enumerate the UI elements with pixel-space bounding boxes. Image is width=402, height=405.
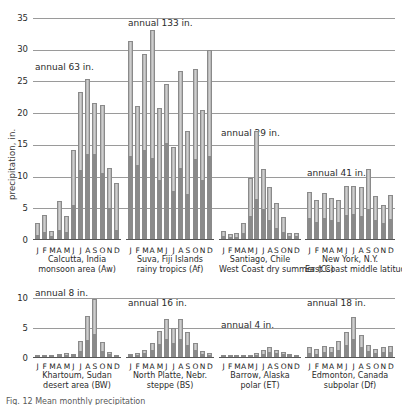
month-label: A bbox=[150, 246, 155, 255]
bar bbox=[241, 355, 246, 357]
month-label: M bbox=[142, 246, 147, 255]
x-axis-month-labels: JFMAMJJASOND bbox=[219, 246, 301, 255]
bar bbox=[164, 84, 169, 239]
bar bbox=[307, 192, 312, 239]
bar-lower-segment bbox=[115, 230, 118, 238]
bar-lower-segment bbox=[86, 154, 89, 238]
bar bbox=[114, 183, 119, 239]
month-label: J bbox=[261, 246, 266, 255]
month-label: M bbox=[336, 246, 341, 255]
bar bbox=[150, 343, 155, 357]
bar bbox=[344, 186, 349, 239]
month-label: N bbox=[107, 362, 112, 371]
bar-lower-segment bbox=[295, 355, 298, 356]
chart-panel: annual 133 in.JFMAMJJASONDSuva, Fiji Isl… bbox=[126, 0, 214, 270]
panel-location-name: North Platte, Nebr. bbox=[126, 371, 214, 381]
month-label: A bbox=[85, 362, 90, 371]
bar-lower-segment bbox=[129, 156, 132, 238]
month-label: O bbox=[193, 246, 198, 255]
bar-group bbox=[33, 17, 121, 239]
bar-lower-segment bbox=[235, 355, 238, 356]
bar-lower-segment bbox=[382, 223, 385, 238]
month-label: S bbox=[185, 362, 190, 371]
bar-lower-segment bbox=[222, 355, 225, 356]
month-label: F bbox=[228, 246, 233, 255]
bar-lower-segment bbox=[201, 354, 204, 356]
bar-lower-segment bbox=[308, 218, 311, 238]
y-tick-label: 10 bbox=[17, 294, 28, 303]
panel-climate-type: subpolar (Df) bbox=[305, 381, 395, 391]
month-label: N bbox=[287, 362, 292, 371]
month-label: M bbox=[49, 246, 54, 255]
bar-lower-segment bbox=[275, 353, 278, 356]
bar-lower-segment bbox=[352, 214, 355, 238]
bar bbox=[64, 353, 69, 357]
bar-lower-segment bbox=[315, 222, 318, 238]
bar bbox=[336, 200, 341, 239]
bar-lower-segment bbox=[101, 351, 104, 356]
month-label: J bbox=[128, 362, 133, 371]
month-label: M bbox=[157, 246, 162, 255]
plot-area bbox=[33, 18, 121, 240]
x-axis-line bbox=[305, 239, 395, 240]
month-label: J bbox=[164, 362, 169, 371]
month-label: D bbox=[114, 246, 119, 255]
month-label: S bbox=[185, 246, 190, 255]
month-label: N bbox=[381, 246, 386, 255]
y-tick-label: 35 bbox=[17, 14, 28, 23]
bar bbox=[221, 231, 226, 239]
plot-area bbox=[219, 18, 301, 240]
bar bbox=[178, 319, 183, 357]
panel-location-name: Calcutta, India bbox=[33, 255, 121, 265]
bar-group bbox=[305, 297, 395, 357]
bar bbox=[178, 71, 183, 239]
bar-lower-segment bbox=[108, 354, 111, 356]
month-label: J bbox=[261, 362, 266, 371]
month-label: J bbox=[254, 246, 259, 255]
month-label: N bbox=[287, 246, 292, 255]
bar bbox=[248, 178, 253, 239]
bar-lower-segment bbox=[108, 208, 111, 238]
bar-lower-segment bbox=[186, 194, 189, 238]
bar-lower-segment bbox=[101, 173, 104, 238]
month-label: D bbox=[294, 362, 299, 371]
bar-lower-segment bbox=[282, 354, 285, 356]
panel-climate-type: desert area (BW) bbox=[33, 381, 121, 391]
bar bbox=[388, 346, 393, 357]
month-label: A bbox=[150, 362, 155, 371]
month-label: F bbox=[42, 246, 47, 255]
panel-climate-type: steppe (BS) bbox=[126, 381, 214, 391]
bar-lower-segment bbox=[194, 159, 197, 238]
bar-lower-segment bbox=[58, 230, 61, 238]
bar bbox=[329, 347, 334, 357]
month-label: S bbox=[274, 362, 279, 371]
month-label: O bbox=[373, 362, 378, 371]
bar bbox=[281, 352, 286, 357]
month-label: M bbox=[322, 246, 327, 255]
month-label: O bbox=[100, 246, 105, 255]
bar bbox=[254, 353, 259, 357]
bar-lower-segment bbox=[43, 232, 46, 238]
month-label: A bbox=[241, 362, 246, 371]
month-label: A bbox=[178, 362, 183, 371]
bar-lower-segment bbox=[374, 220, 377, 238]
bar bbox=[221, 355, 226, 357]
panel-caption: Calcutta, Indiamonsoon area (Aw) bbox=[33, 255, 121, 274]
bar bbox=[92, 299, 97, 357]
bar-lower-segment bbox=[268, 352, 271, 356]
bar-lower-segment bbox=[65, 232, 68, 238]
month-label: M bbox=[157, 362, 162, 371]
plot-area bbox=[305, 298, 395, 358]
bar bbox=[267, 347, 272, 357]
bar-lower-segment bbox=[229, 355, 232, 356]
month-label: J bbox=[344, 362, 349, 371]
panel-climate-type: East Coast middle latitudes (Cf) bbox=[305, 265, 395, 275]
bar-lower-segment bbox=[323, 352, 326, 356]
bar-lower-segment bbox=[295, 236, 298, 238]
panel-location-name: Khartoum, Sudan bbox=[33, 371, 121, 381]
bar-lower-segment bbox=[242, 355, 245, 356]
bar-lower-segment bbox=[262, 354, 265, 356]
bar bbox=[35, 223, 40, 239]
chart-panel: annual 8 in.JFMAMJJASONDKhartoum, Sudand… bbox=[33, 288, 121, 388]
bar bbox=[359, 187, 364, 239]
